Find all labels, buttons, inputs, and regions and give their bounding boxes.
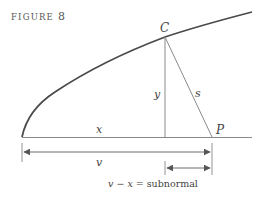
label-point-c: C	[160, 22, 169, 34]
caption-equals: =	[133, 178, 147, 189]
label-v: v	[96, 157, 102, 168]
parabola-curve	[22, 12, 252, 137]
caption-minus: −	[113, 178, 127, 189]
caption-subnormal: subnormal	[147, 178, 198, 189]
label-point-p: P	[216, 124, 224, 136]
subnormal-caption: v − x = subnormal	[108, 178, 198, 189]
normal-s-line	[165, 37, 212, 137]
label-y: y	[154, 89, 160, 100]
diagram-canvas	[0, 0, 265, 200]
label-x: x	[96, 124, 102, 135]
label-s: s	[195, 88, 201, 99]
figure-8: FIGURE 8 C P y s x v v − x = subnormal	[0, 0, 265, 200]
